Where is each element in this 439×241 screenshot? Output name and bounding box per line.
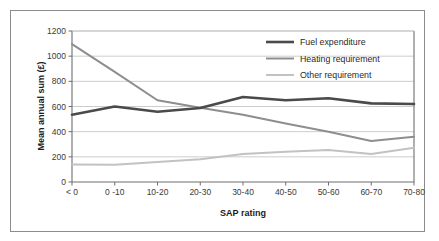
y-tick-label-1200: 1200 (47, 26, 66, 36)
y-axis-title: Mean annual sum (£) (36, 61, 46, 150)
legend-label-2: Other requirement (300, 70, 372, 80)
chart-figure: 020040060080010001200 < 00 -1010-2020-30… (0, 0, 439, 241)
x-tick-label-4: 30-40 (232, 187, 254, 197)
line-chart-canvas: 020040060080010001200 < 00 -1010-2020-30… (0, 0, 439, 241)
y-tick-label-800: 800 (52, 76, 66, 86)
chart-legend: Fuel expenditureHeating requirementOther… (266, 37, 380, 80)
x-tick-label-7: 60-70 (360, 187, 382, 197)
x-tick-label-3: 20-30 (189, 187, 211, 197)
x-tick-label-1: 0 -10 (105, 187, 125, 197)
x-tick-label-6: 50-60 (318, 187, 340, 197)
legend-label-0: Fuel expenditure (300, 37, 366, 47)
y-tick-label-200: 200 (52, 152, 66, 162)
y-tick-label-600: 600 (52, 102, 66, 112)
y-axis-tick-labels: 020040060080010001200 (47, 26, 72, 187)
y-tick-label-0: 0 (61, 177, 66, 187)
series-line-other-requirement (72, 148, 414, 165)
x-tick-label-5: 40-50 (275, 187, 297, 197)
x-axis-title: SAP rating (220, 208, 266, 218)
y-tick-label-1000: 1000 (47, 51, 66, 61)
x-tick-label-2: 10-20 (147, 187, 169, 197)
x-tick-label-8: 70-80 (403, 187, 425, 197)
x-axis-tick-labels: < 00 -1010-2020-3030-4040-5050-6060-7070… (66, 182, 425, 197)
x-tick-label-0: < 0 (66, 187, 78, 197)
gridlines (72, 31, 414, 157)
series-line-fuel-expenditure (72, 97, 414, 115)
y-tick-label-400: 400 (52, 127, 66, 137)
legend-label-1: Heating requirement (300, 54, 380, 64)
